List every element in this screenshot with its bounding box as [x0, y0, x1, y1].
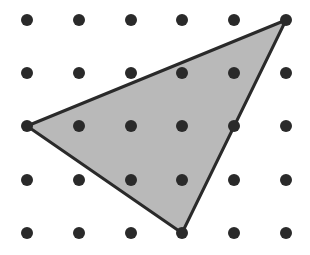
grid-dot: [176, 67, 188, 79]
grid-dot: [228, 67, 240, 79]
grid-dot: [280, 227, 292, 239]
grid-dot: [176, 14, 188, 26]
grid-dot: [176, 120, 188, 132]
dot-grid-figure: [0, 0, 310, 255]
shaded-triangle: [27, 20, 286, 233]
grid-dot: [21, 67, 33, 79]
grid-dot: [21, 14, 33, 26]
grid-dot: [125, 227, 137, 239]
grid-dot: [176, 227, 188, 239]
grid-dot: [21, 174, 33, 186]
grid-dot: [73, 120, 85, 132]
grid-dot: [21, 227, 33, 239]
grid-dot: [280, 67, 292, 79]
grid-dot: [125, 120, 137, 132]
grid-dot: [280, 174, 292, 186]
grid-dot: [280, 120, 292, 132]
grid-dot: [228, 120, 240, 132]
grid-dot: [125, 67, 137, 79]
grid-dot: [176, 174, 188, 186]
grid-dot: [228, 14, 240, 26]
grid-dot: [73, 67, 85, 79]
grid-dot: [125, 14, 137, 26]
grid-dot: [280, 14, 292, 26]
grid-dot: [73, 227, 85, 239]
grid-dot: [125, 174, 137, 186]
grid-dot: [21, 120, 33, 132]
grid-dot: [73, 14, 85, 26]
grid-dot: [73, 174, 85, 186]
dot-grid-canvas: [0, 0, 310, 255]
grid-dot: [228, 227, 240, 239]
grid-dot: [228, 174, 240, 186]
